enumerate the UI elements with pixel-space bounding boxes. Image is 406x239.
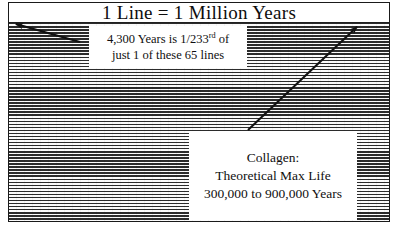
- callout-lines-line-1: 4,300 Years is 1/233rd of: [107, 31, 229, 47]
- page-title: 1 Line = 1 Million Years: [102, 3, 296, 22]
- callout-lines-ordinal-suffix: rd: [209, 31, 216, 40]
- callout-4300-years: 4,300 Years is 1/233rd of just 1 of thes…: [89, 26, 247, 68]
- callout-collagen-line-1: Collagen:: [247, 149, 300, 167]
- figure-root: 1 Line = 1 Million Years 4,300 Years is …: [0, 0, 406, 239]
- callout-lines-line-1-suffix: of: [216, 32, 230, 46]
- callout-collagen: Collagen: Theoretical Max Life 300,000 t…: [189, 131, 357, 220]
- callout-lines-line-2: just 1 of these 65 lines: [112, 47, 224, 63]
- callout-lines-line-1-prefix: 4,300 Years is 1/233: [107, 32, 209, 46]
- callout-collagen-line-3: 300,000 to 900,000 Years: [204, 185, 342, 203]
- title-band: 1 Line = 1 Million Years: [9, 3, 389, 23]
- callout-collagen-line-2: Theoretical Max Life: [215, 167, 330, 185]
- chart-frame: 1 Line = 1 Million Years 4,300 Years is …: [8, 2, 390, 222]
